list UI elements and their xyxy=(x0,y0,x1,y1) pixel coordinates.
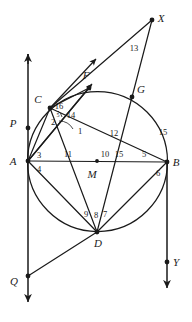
angle-label-1: 1 xyxy=(78,126,82,136)
point-label-B: B xyxy=(173,156,180,168)
point-labels-group: ABCDFGMXPQY xyxy=(9,12,181,287)
point-dot-D xyxy=(95,230,100,235)
angle-label-7: 7 xyxy=(103,209,107,219)
point-label-Q: Q xyxy=(10,275,18,287)
point-dot-A xyxy=(26,159,31,164)
angle-label-10: 10 xyxy=(101,149,110,159)
point-dot-M xyxy=(95,159,99,163)
angle-label-3: 3 xyxy=(37,150,41,160)
point-label-Y: Y xyxy=(173,256,181,268)
angle-label-2: 2 xyxy=(51,117,55,127)
angle-label-12: 12 xyxy=(110,128,119,138)
angle-label-6: 6 xyxy=(156,168,160,178)
point-label-X: X xyxy=(157,12,166,24)
geometry-figure: ABCDFGMXPQY 12345678910111213141515165 xyxy=(0,0,192,322)
point-label-F: F xyxy=(82,69,90,81)
angle-label-15: 15 xyxy=(159,127,168,137)
angle-label-5: 5 xyxy=(142,149,146,159)
segment-D-G-X xyxy=(97,20,152,232)
point-label-A: A xyxy=(9,155,17,167)
angle-label-5: 5 xyxy=(57,112,60,118)
angle-label-4: 4 xyxy=(37,164,42,174)
point-label-M: M xyxy=(86,168,97,180)
angle-label-9: 9 xyxy=(84,209,88,219)
point-dot-B xyxy=(165,160,170,165)
geometry-canvas: ABCDFGMXPQY 12345678910111213141515165 xyxy=(0,0,192,322)
point-dot-X xyxy=(150,18,155,23)
point-label-D: D xyxy=(93,237,102,249)
segment-D-Q xyxy=(28,232,97,276)
angle-label-8: 8 xyxy=(94,210,98,220)
point-label-G: G xyxy=(137,83,145,95)
angle-label-15: 15 xyxy=(115,149,124,159)
angle-label-11: 11 xyxy=(64,149,72,159)
point-label-P: P xyxy=(9,117,17,129)
point-dot-C xyxy=(48,106,53,111)
point-dot-Y xyxy=(165,260,170,265)
point-dot-F xyxy=(87,86,92,91)
point-dot-G xyxy=(130,95,135,100)
angle-label-14: 14 xyxy=(67,110,76,120)
angle-label-13: 13 xyxy=(130,43,139,53)
point-dot-Q xyxy=(26,274,31,279)
point-label-C: C xyxy=(34,93,42,105)
angle-label-16: 16 xyxy=(55,101,64,111)
point-dot-P xyxy=(26,126,31,131)
